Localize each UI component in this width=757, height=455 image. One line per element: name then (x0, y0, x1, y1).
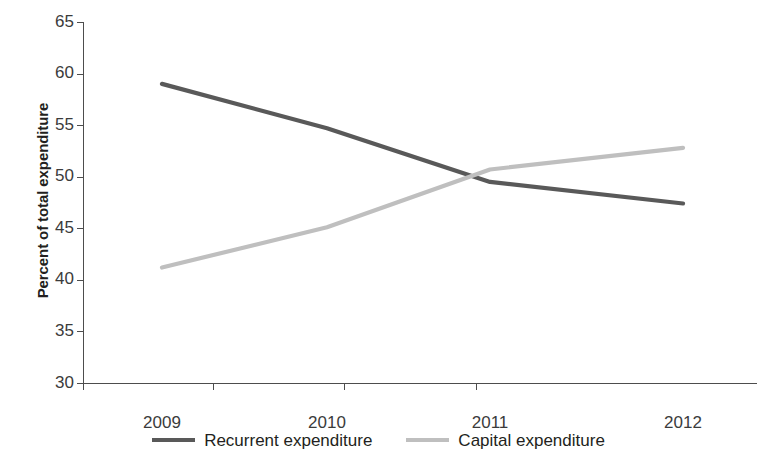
y-tick-label-65: 65 (34, 13, 74, 30)
legend-line-swatch-recurrent (152, 438, 195, 442)
y-axis-tick-labels: 65 60 55 50 45 40 35 30 (28, 0, 74, 455)
plot-area: 2009 2010 2011 2012 (83, 22, 757, 383)
series-lines (83, 22, 757, 384)
legend-label-recurrent: Recurrent expenditure (204, 432, 372, 449)
legend-label-capital: Capital expenditure (458, 432, 604, 449)
x-axis-tick-0 (83, 383, 84, 390)
legend-item-recurrent-expenditure: Recurrent expenditure (152, 432, 372, 449)
y-tick-label-30: 30 (34, 374, 74, 391)
y-tick-label-60: 60 (34, 64, 74, 81)
line-chart: Percent of total expenditure 65 60 55 50… (0, 0, 757, 455)
chart-legend: Recurrent expenditure Capital expenditur… (0, 425, 757, 455)
legend-item-capital-expenditure: Capital expenditure (406, 432, 604, 449)
y-tick-label-50: 50 (34, 167, 74, 184)
y-tick-label-40: 40 (34, 270, 74, 287)
x-axis-tick-1 (213, 383, 214, 390)
y-tick-label-45: 45 (34, 219, 74, 236)
x-axis-tick-2 (344, 383, 345, 390)
x-axis-tick-3 (476, 383, 477, 390)
y-tick-label-55: 55 (34, 116, 74, 133)
series-line-recurrent-expenditure (162, 84, 683, 204)
y-tick-label-35: 35 (34, 322, 74, 339)
legend-line-swatch-capital (406, 438, 449, 442)
series-line-capital-expenditure (162, 148, 683, 268)
